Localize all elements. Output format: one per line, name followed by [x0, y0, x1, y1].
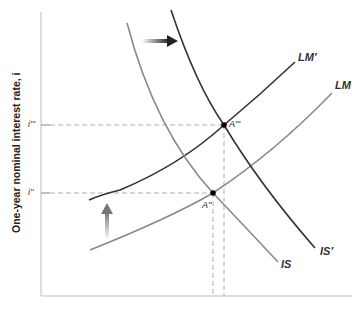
label-lm-prime: LM′ — [298, 51, 317, 63]
lm-prime-curve — [89, 62, 295, 200]
label-is-prime: IS′ — [320, 245, 333, 257]
tick-label-i-double: i'' — [28, 187, 33, 197]
arrow-up-icon — [101, 203, 113, 240]
y-axis-label: One-year nominal interest rate, i — [10, 73, 24, 233]
point-a-triple-prime — [221, 122, 227, 128]
label-is: IS — [281, 258, 291, 270]
islm-diagram — [0, 0, 363, 315]
point-a-double-prime — [210, 190, 216, 196]
arrow-right-icon — [142, 35, 178, 47]
label-a-double-prime: A'' — [202, 200, 211, 210]
is-prime-curve — [171, 10, 315, 248]
label-a-triple-prime: A''' — [229, 119, 240, 129]
label-lm: LM — [335, 79, 351, 91]
tick-label-i-triple: i''' — [28, 119, 35, 129]
